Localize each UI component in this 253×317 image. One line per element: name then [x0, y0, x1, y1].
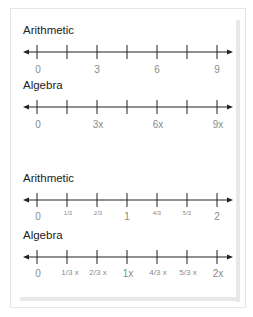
tick-label: 9 — [214, 64, 220, 75]
tick-label: 0 — [35, 268, 41, 279]
tick-label: 1 — [124, 211, 130, 222]
number-line-arithmetic-2 — [0, 190, 253, 230]
number-line-algebra-1 — [0, 97, 253, 137]
arrow-left-icon — [23, 50, 29, 55]
section-title-arithmetic-2: Arithmetic — [23, 172, 74, 184]
tick-label: 0 — [35, 119, 41, 130]
tick-label: 4/3 x — [149, 268, 166, 277]
tick-label: 6x — [153, 119, 164, 130]
tick-label: 0 — [35, 211, 41, 222]
tick-label: 9x — [213, 119, 224, 130]
tick-label: 0 — [35, 64, 41, 75]
arrow-right-icon — [227, 105, 233, 110]
arrow-right-icon — [227, 255, 233, 260]
tick-label-fraction: 2/3 — [94, 210, 102, 216]
number-line-algebra-2 — [0, 247, 253, 287]
tick-label: 2/3 x — [89, 268, 106, 277]
card-shadow-bottom — [20, 297, 240, 301]
tick-label: 6 — [154, 64, 160, 75]
tick-label: 5/3 x — [179, 268, 196, 277]
section-title-algebra-2: Algebra — [23, 229, 63, 241]
tick-label-fraction: 1/3 — [64, 210, 72, 216]
tick-label: 3x — [93, 119, 104, 130]
number-line-arithmetic-1 — [0, 42, 253, 82]
tick-label: 2 — [214, 211, 220, 222]
section-title-arithmetic-1: Arithmetic — [23, 24, 74, 36]
arrow-right-icon — [227, 198, 233, 203]
tick-label: 3 — [94, 64, 100, 75]
arrow-left-icon — [23, 255, 29, 260]
arrow-right-icon — [227, 50, 233, 55]
tick-label-fraction: 5/3 — [183, 210, 191, 216]
arrow-left-icon — [23, 198, 29, 203]
tick-label: 1x — [123, 268, 134, 279]
tick-label: 2x — [213, 268, 224, 279]
tick-label: 1/3 x — [61, 268, 78, 277]
section-title-algebra-1: Algebra — [23, 79, 63, 91]
arrow-left-icon — [23, 105, 29, 110]
tick-label-fraction: 4/3 — [153, 210, 161, 216]
